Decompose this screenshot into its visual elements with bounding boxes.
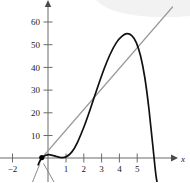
x-axis-label: x [180,154,185,164]
function-curve [38,34,157,182]
x-tick-label-1: 1 [64,164,69,174]
y-tick-label-10: 10 [31,131,41,141]
scan-smudge [96,0,190,17]
y-tick-label-50: 50 [31,40,41,50]
y-tick-label-40: 40 [31,63,41,73]
leader-line-left [33,164,41,183]
y-axis-arrow [45,0,51,7]
x-tick-label-3: 3 [99,164,104,174]
clipped-annotation-right: 3) [58,180,66,182]
axes-group [0,0,178,182]
x-tick-label-5: 5 [135,164,140,174]
graph-figure: 60 50 40 30 20 10 −2 1 2 3 4 5 x ( 3) [0,0,190,182]
plot-canvas: 60 50 40 30 20 10 −2 1 2 3 4 5 x ( 3) [0,0,190,182]
x-tick-label-2: 2 [82,164,87,174]
y-tick-label-30: 30 [31,85,41,95]
y-tick-labels: 60 50 40 30 20 10 [31,17,41,141]
annotation-leader-lines [33,164,55,183]
tangent-line [42,7,173,158]
x-tick-labels: −2 1 2 3 4 5 [8,164,140,174]
x-tick-label-4: 4 [117,164,122,174]
x-tick-label-neg2: −2 [8,164,18,174]
leader-line-right [44,164,55,183]
x-axis-arrow [171,155,178,162]
tangency-point-marker[interactable] [39,155,44,160]
y-tick-label-20: 20 [31,108,41,118]
clipped-annotation-left: ( [29,180,32,182]
y-tick-label-60: 60 [31,17,41,27]
